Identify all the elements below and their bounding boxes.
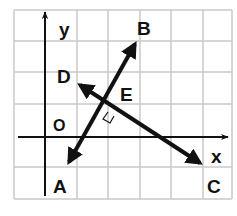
y-axis-label: y	[59, 19, 70, 40]
point-label-c: C	[207, 176, 221, 197]
point-label-e: E	[120, 84, 133, 105]
origin-label: O	[53, 117, 65, 134]
x-axis-label: x	[211, 146, 222, 167]
point-label-a: A	[53, 176, 67, 197]
point-label-d: D	[57, 66, 71, 87]
point-label-b: B	[137, 18, 151, 39]
coordinate-diagram: y x O A B C D E	[0, 0, 237, 216]
